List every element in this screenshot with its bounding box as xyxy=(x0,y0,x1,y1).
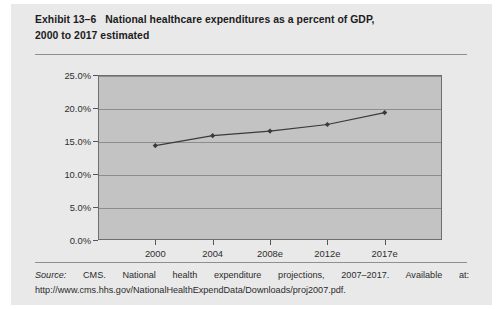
y-axis-tick-mark xyxy=(93,207,98,208)
title-line-1: National healthcare expenditures as a pe… xyxy=(105,14,374,25)
source-note: Source: CMS. National health expenditure… xyxy=(35,268,469,297)
x-axis-tick-label: 2000 xyxy=(145,248,166,259)
y-axis-tick-mark xyxy=(93,141,98,142)
x-axis-tick-mark xyxy=(327,240,328,245)
title-line-2: 2000 to 2017 estimated xyxy=(35,30,149,41)
y-axis-tick-mark xyxy=(93,174,98,175)
x-axis-tick-mark xyxy=(385,240,386,245)
data-point-marker xyxy=(153,143,158,148)
x-axis-tick-mark xyxy=(270,240,271,245)
chart-svg xyxy=(35,66,467,251)
source-text: CMS. National health expenditure project… xyxy=(35,270,469,295)
line-chart: 0.0%5.0%10.0%15.0%20.0%25.0%200020042008… xyxy=(35,66,467,251)
y-axis-tick-label: 20.0% xyxy=(35,103,91,114)
data-point-marker xyxy=(382,110,387,115)
y-axis-tick-mark xyxy=(93,75,98,76)
data-point-marker xyxy=(325,122,330,127)
y-axis-tick-label: 25.0% xyxy=(35,70,91,81)
x-axis-tick-mark xyxy=(213,240,214,245)
y-axis-tick-label: 15.0% xyxy=(35,136,91,147)
y-axis-tick-label: 10.0% xyxy=(35,169,91,180)
y-axis-tick-mark xyxy=(93,240,98,241)
exhibit-figure: Exhibit 13–6National healthcare expendit… xyxy=(11,4,492,305)
y-axis-tick-label: 0.0% xyxy=(35,235,91,246)
y-axis-tick-mark xyxy=(93,108,98,109)
x-axis-tick-label: 2008e xyxy=(257,248,283,259)
y-axis-tick-label: 5.0% xyxy=(35,202,91,213)
source-label: Source: xyxy=(35,270,66,280)
page-title: Exhibit 13–6National healthcare expendit… xyxy=(35,12,465,43)
x-axis-tick-label: 2012e xyxy=(314,248,340,259)
x-axis-tick-label: 2017e xyxy=(372,248,398,259)
data-point-marker xyxy=(210,133,215,138)
divider-bottom xyxy=(35,262,467,263)
x-axis-tick-label: 2004 xyxy=(202,248,223,259)
x-axis-tick-mark xyxy=(155,240,156,245)
exhibit-number: Exhibit 13–6 xyxy=(35,14,96,25)
data-point-marker xyxy=(267,129,272,134)
divider-top xyxy=(35,54,467,55)
